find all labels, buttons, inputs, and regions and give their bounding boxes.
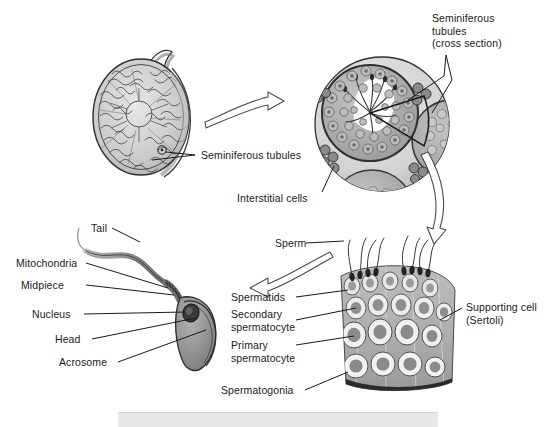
label-spermatogonia: Spermatogonia [221,384,294,397]
label-supporting-cell-sertoli: Supporting cell (Sertoli) [466,301,537,326]
caption-bar [118,412,438,427]
tubule-wedge-illustration [341,236,455,402]
label-primary-spermatocyte: Primary spermatocyte [231,339,295,364]
label-acrosome: Acrosome [59,356,107,369]
arrow-testis-to-cross-section [205,92,284,128]
label-interstitial-cells: Interstitial cells [237,192,308,205]
sperm-cell-illustration [78,228,216,371]
label-sperm: Sperm [275,237,306,250]
testis-whole-illustration [93,50,190,177]
label-seminiferous-tubules-cross-section: Seminiferous tubules (cross section) [432,12,502,50]
label-seminiferous-tubules: Seminiferous tubules [201,149,301,162]
label-secondary-spermatocyte: Secondary spermatocyte [231,308,295,333]
label-mitochondria: Mitochondria [16,257,77,270]
label-spermatids: Spermatids [231,291,285,304]
label-nucleus: Nucleus [32,308,71,321]
label-tail: Tail [91,222,107,235]
tubule-cross-section-illustration [300,57,492,254]
label-head: Head [55,333,81,346]
label-midpiece: Midpiece [21,279,64,292]
